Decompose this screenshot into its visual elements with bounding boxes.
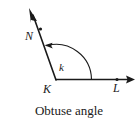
figure-caption: Obtuse angle (0, 103, 138, 119)
obtuse-angle-figure: N L K k Obtuse angle (0, 0, 138, 124)
point-label-n: N (25, 30, 33, 42)
arrowhead-up-left-icon (29, 8, 37, 23)
vertex-label-k: K (43, 83, 51, 95)
point-marker-icon (39, 27, 42, 30)
angle-label-k: k (59, 62, 64, 73)
point-label-l: L (113, 82, 120, 94)
arc-arrowhead-icon (45, 43, 53, 49)
ray-kn (33, 15, 56, 80)
